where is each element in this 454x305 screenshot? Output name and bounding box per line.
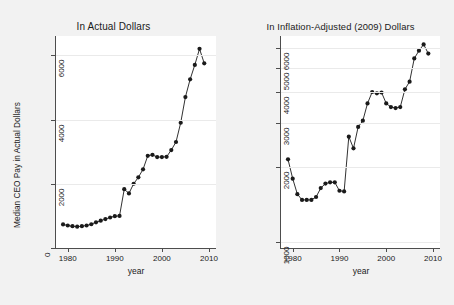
y-axis-tick-label: 6000 bbox=[282, 52, 291, 70]
gridline bbox=[56, 120, 216, 121]
data-point bbox=[146, 154, 150, 158]
data-point bbox=[202, 61, 206, 65]
data-point bbox=[328, 180, 332, 184]
data-point bbox=[94, 220, 98, 224]
series-left bbox=[56, 36, 216, 248]
data-point bbox=[122, 187, 126, 191]
data-point bbox=[389, 105, 393, 109]
x-axis-line-right bbox=[280, 248, 440, 249]
y-axis-tick-label: 2000 bbox=[282, 172, 291, 190]
gridline bbox=[281, 92, 440, 93]
data-point bbox=[319, 186, 323, 190]
data-point bbox=[150, 153, 154, 157]
data-point bbox=[342, 189, 346, 193]
data-point bbox=[155, 155, 159, 159]
x-axis-tick bbox=[68, 248, 69, 252]
x-axis-tick bbox=[162, 248, 163, 252]
data-point bbox=[286, 157, 290, 161]
y-axis-tick bbox=[276, 242, 280, 243]
data-point bbox=[108, 215, 112, 219]
data-point bbox=[61, 222, 65, 226]
y-axis-tick bbox=[276, 48, 280, 49]
x-axis-tick bbox=[209, 248, 210, 252]
data-point bbox=[66, 223, 70, 227]
x-axis-title-left: year bbox=[56, 266, 216, 276]
data-point bbox=[193, 63, 197, 67]
gridline bbox=[281, 68, 440, 69]
data-point bbox=[300, 198, 304, 202]
data-point bbox=[80, 224, 84, 228]
data-point bbox=[164, 155, 168, 159]
data-point bbox=[179, 121, 183, 125]
y-axis-tick-label: 6000 bbox=[57, 60, 66, 78]
plot-area-left bbox=[56, 36, 216, 248]
data-point bbox=[127, 191, 131, 195]
data-point bbox=[160, 155, 164, 159]
data-point bbox=[169, 148, 173, 152]
data-point bbox=[75, 225, 79, 229]
data-point bbox=[305, 198, 309, 202]
panel-title-right: In Inflation-Adjusted (2009) Dollars bbox=[227, 21, 454, 32]
x-axis-tick bbox=[339, 248, 340, 252]
y-axis-tick-label: 4000 bbox=[282, 96, 291, 114]
x-axis-line-left bbox=[55, 248, 216, 249]
data-point bbox=[398, 105, 402, 109]
data-point bbox=[365, 101, 369, 105]
x-axis-tick bbox=[293, 248, 294, 252]
y-axis-tick-label: 2000 bbox=[57, 188, 66, 206]
data-point bbox=[333, 180, 337, 184]
data-point bbox=[295, 192, 299, 196]
data-point bbox=[183, 95, 187, 99]
data-point bbox=[174, 140, 178, 144]
data-point bbox=[188, 77, 192, 81]
data-point bbox=[403, 87, 407, 91]
data-point bbox=[197, 47, 201, 51]
y-axis-tick-label: 5000 bbox=[282, 72, 291, 90]
x-axis-tick bbox=[115, 248, 116, 252]
data-point bbox=[113, 214, 117, 218]
data-point bbox=[351, 146, 355, 150]
data-point bbox=[314, 195, 318, 199]
plot-area-right bbox=[281, 36, 440, 248]
data-point bbox=[356, 125, 360, 129]
x-axis-tick-label: 1990 bbox=[106, 254, 124, 263]
gridline bbox=[281, 48, 440, 49]
y-axis-tick-label: 0 bbox=[43, 253, 52, 257]
gridline bbox=[56, 55, 216, 56]
data-point bbox=[408, 80, 412, 84]
y-axis-tick bbox=[51, 55, 55, 56]
data-point bbox=[323, 181, 327, 185]
panel-title-left: In Actual Dollars bbox=[0, 21, 227, 32]
x-axis-tick-label: 2000 bbox=[153, 254, 171, 263]
gridline bbox=[281, 242, 440, 243]
x-axis-tick-label: 1990 bbox=[331, 254, 349, 263]
data-point bbox=[426, 51, 430, 55]
data-point bbox=[393, 106, 397, 110]
y-axis-tick bbox=[51, 248, 55, 249]
data-point bbox=[412, 56, 416, 60]
data-point bbox=[103, 217, 107, 221]
chart-panel-inflation-adjusted: In Inflation-Adjusted (2009) Dollars yea… bbox=[227, 0, 454, 305]
data-point bbox=[84, 223, 88, 227]
gridline bbox=[56, 184, 216, 185]
x-axis-tick-label: 2010 bbox=[424, 254, 442, 263]
data-point bbox=[136, 175, 140, 179]
data-point bbox=[70, 224, 74, 228]
y-axis-tick bbox=[51, 120, 55, 121]
y-axis-tick bbox=[276, 68, 280, 69]
chart-panel-actual-dollars: In Actual Dollars year Median CEO Pay in… bbox=[0, 0, 227, 305]
data-point bbox=[337, 189, 341, 193]
data-point bbox=[417, 49, 421, 53]
y-axis-title-left: Median CEO Pay in Actual Dollars bbox=[12, 102, 22, 228]
y-axis-tick-label: 3000 bbox=[282, 128, 291, 146]
data-point bbox=[309, 198, 313, 202]
gridline bbox=[281, 123, 440, 124]
data-point bbox=[89, 222, 93, 226]
figure-canvas: In Actual Dollars year Median CEO Pay in… bbox=[0, 0, 454, 305]
y-axis-tick bbox=[276, 167, 280, 168]
y-axis-tick bbox=[51, 184, 55, 185]
gridline bbox=[281, 167, 440, 168]
x-axis-tick bbox=[386, 248, 387, 252]
y-axis-tick bbox=[276, 123, 280, 124]
x-axis-tick-label: 1980 bbox=[59, 254, 77, 263]
